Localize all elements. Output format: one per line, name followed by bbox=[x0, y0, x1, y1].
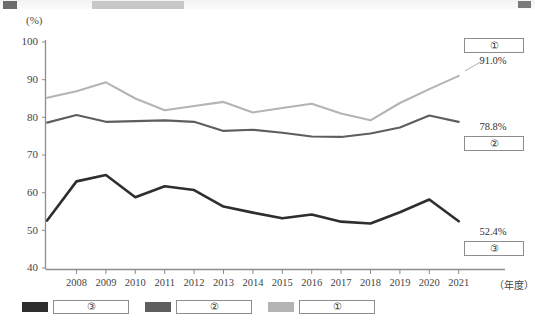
y-tick-label-90: 90 bbox=[12, 74, 38, 85]
chart-legend: ③ ② ① bbox=[22, 300, 391, 314]
series-3-callout-value: 52.4% bbox=[464, 226, 522, 238]
x-axis-ticks bbox=[77, 270, 459, 275]
series-1-callout-value: 91.0% bbox=[464, 55, 522, 67]
legend-label-1: ① bbox=[299, 300, 375, 314]
legend-label-3: ③ bbox=[53, 300, 129, 314]
y-tick-label-80: 80 bbox=[12, 112, 38, 123]
series-3-line bbox=[47, 175, 459, 224]
legend-swatch-1 bbox=[268, 302, 294, 312]
y-tick-label-60: 60 bbox=[12, 187, 38, 198]
y-tick-label-40: 40 bbox=[12, 262, 38, 273]
legend-item-1[interactable]: ① bbox=[268, 300, 375, 314]
x-axis-unit-label: （年度） bbox=[494, 277, 534, 292]
series-2-line bbox=[47, 115, 459, 137]
y-tick-label-70: 70 bbox=[12, 149, 38, 160]
chart-page: (%) bbox=[0, 0, 535, 325]
legend-swatch-2 bbox=[145, 302, 171, 312]
series-3-callout-box: ③ bbox=[464, 241, 524, 256]
series-2-callout-value: 78.8% bbox=[464, 121, 522, 133]
y-tick-label-50: 50 bbox=[12, 225, 38, 236]
x-tick-label-2021: 2021 bbox=[442, 277, 476, 288]
y-tick-label-100: 100 bbox=[12, 36, 38, 47]
legend-item-2[interactable]: ② bbox=[145, 300, 252, 314]
series-1-line bbox=[47, 76, 459, 120]
legend-item-3[interactable]: ③ bbox=[22, 300, 129, 314]
series-group bbox=[47, 76, 459, 224]
legend-label-2: ② bbox=[176, 300, 252, 314]
legend-swatch-3 bbox=[22, 302, 48, 312]
series-1-callout-box: ① bbox=[464, 38, 524, 53]
series-2-callout-box: ② bbox=[464, 136, 524, 151]
